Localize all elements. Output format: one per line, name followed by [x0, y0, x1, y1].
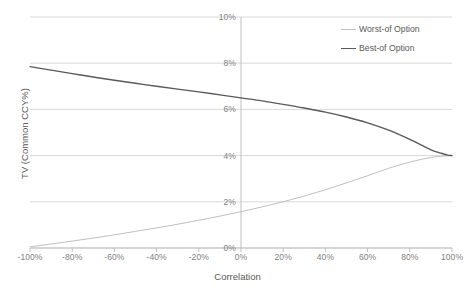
- x-tick-label: 20%: [275, 252, 292, 262]
- legend-item-label: Best-of Option: [359, 43, 415, 53]
- y-tick-label: 4%: [224, 151, 237, 161]
- y-tick-label: 10%: [219, 12, 236, 22]
- x-axis-title: Correlation: [0, 271, 475, 282]
- x-tick-label: 80%: [401, 252, 418, 262]
- y-axis-title: TV (Common CCY%): [19, 54, 30, 214]
- legend-item[interactable]: Worst-of Option: [341, 24, 420, 34]
- x-tick-label: -40%: [146, 252, 166, 262]
- x-tick-label: 0%: [235, 252, 248, 262]
- x-tick-label: -60%: [104, 252, 124, 262]
- legend-line-swatch-icon: [341, 29, 356, 30]
- x-tick-label: -80%: [62, 252, 82, 262]
- legend-item-label: Worst-of Option: [359, 24, 420, 34]
- legend-item[interactable]: Best-of Option: [341, 43, 420, 53]
- x-tick-label: 60%: [359, 252, 376, 262]
- chart-container: 0%2%4%6%8%10% -100%-80%-60%-40%-20%0%20%…: [0, 0, 475, 293]
- legend-line-swatch-icon: [341, 48, 356, 49]
- y-tick-label: 2%: [224, 197, 237, 207]
- x-tick-label: -100%: [17, 252, 42, 262]
- y-tick-label: 8%: [224, 58, 237, 68]
- x-tick-label: -20%: [189, 252, 209, 262]
- chart-legend: Worst-of OptionBest-of Option: [341, 24, 420, 53]
- x-tick-label: 100%: [441, 252, 463, 262]
- y-tick-label: 6%: [224, 104, 237, 114]
- x-tick-label: 40%: [317, 252, 334, 262]
